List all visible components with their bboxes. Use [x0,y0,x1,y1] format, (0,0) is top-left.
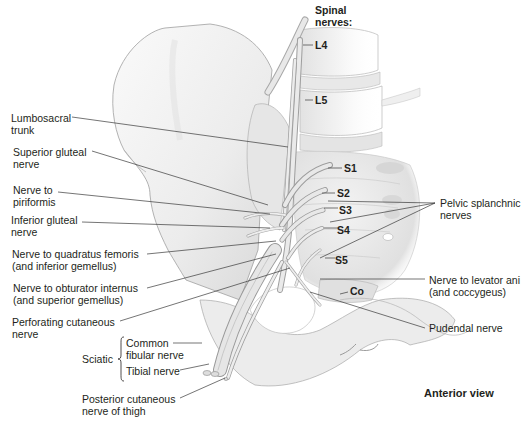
label-line: Inferior gluteal [11,214,78,226]
view-label: Anterior view [424,387,494,399]
label-tibial-nerve: Tibial nerve [126,365,180,377]
label-perforating-cutaneous-nerve: Perforating cutaneous nerve [12,316,115,340]
label-pudendal-nerve: Pudendal nerve [429,322,503,334]
label-superior-gluteal-nerve: Superior gluteal nerve [13,146,87,170]
label-posterior-cutaneous-nerve-of-thigh: Posterior cutaneous nerve of thigh [82,393,175,417]
spinal-nerves-heading: Spinal nerves: [315,4,352,28]
label-line: piriformis [13,196,56,208]
label-line: Perforating cutaneous [12,316,115,328]
label-line: Posterior cutaneous [82,393,175,405]
label-nerve-to-levator-ani: Nerve to levator ani (and coccygeus) [429,274,520,298]
label-line: nerve of thigh [82,405,175,417]
segment-label-l4: L4 [315,39,327,51]
label-line: Nerve to quadratus femoris [12,248,139,260]
label-line: (and superior gemellus) [13,294,138,306]
label-line: fibular nerve [126,349,184,361]
label-line: (and inferior gemellus) [12,260,139,272]
label-line: nerve [12,328,115,340]
segment-label-s3: S3 [339,204,352,216]
label-nerve-to-piriformis: Nerve to piriformis [13,184,56,208]
label-nerve-to-obturator-internus: Nerve to obturator internus (and superio… [13,282,138,306]
heading-line-2: nerves: [315,16,352,28]
label-line: Nerve to [13,184,56,196]
label-line: Nerve to levator ani [429,274,520,286]
label-line: trunk [11,124,71,136]
segment-label-s1: S1 [344,162,357,174]
label-sciatic: Sciatic [82,353,113,365]
label-line: Common [126,337,184,349]
label-line: (and coccygeus) [429,286,520,298]
label-inferior-gluteal-nerve: Inferior gluteal nerve [11,214,78,238]
sciatic-brace [118,336,124,382]
segment-label-co: Co [350,285,364,297]
segment-label-l5: L5 [315,94,327,106]
segment-label-s4: S4 [337,224,350,236]
label-line: Nerve to obturator internus [13,282,138,294]
segment-label-s2: S2 [337,187,350,199]
heading-line-1: Spinal [315,4,352,16]
label-nerve-to-quadratus-femoris: Nerve to quadratus femoris (and inferior… [12,248,139,272]
label-line: nerve [13,158,87,170]
label-line: Tibial nerve [126,365,180,377]
label-pelvic-splanchnic-nerves: Pelvic splanchnic nerves [440,197,521,221]
label-line: Pudendal nerve [429,322,503,334]
label-line: Superior gluteal [13,146,87,158]
label-line: nerve [11,226,78,238]
label-line: Lumbosacral [11,112,71,124]
label-lumbosacral-trunk: Lumbosacral trunk [11,112,71,136]
label-line: nerves [440,209,521,221]
label-common-fibular-nerve: Common fibular nerve [126,337,184,361]
segment-label-s5: S5 [335,254,348,266]
label-line: Pelvic splanchnic [440,197,521,209]
